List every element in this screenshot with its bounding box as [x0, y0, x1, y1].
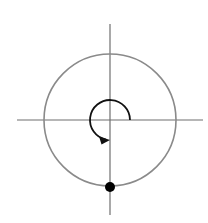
point-on-circle: [105, 182, 115, 192]
rotation-diagram: [0, 0, 208, 223]
diagram-canvas: [0, 0, 208, 223]
rotation-arrowhead-icon: [99, 137, 110, 145]
